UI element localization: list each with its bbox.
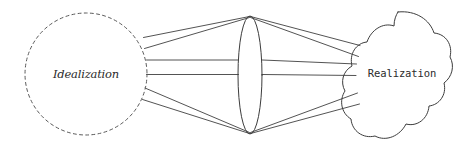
connector-left-6 xyxy=(143,100,250,134)
connector-right-3 xyxy=(262,60,357,64)
connector-left-5 xyxy=(145,88,250,133)
idealization-label: Idealization xyxy=(53,67,119,81)
connector-left-2 xyxy=(145,18,250,49)
diagram-canvas: Idealization Realization xyxy=(0,0,457,153)
connector-right-6 xyxy=(251,104,360,134)
lens-ellipse xyxy=(238,16,262,134)
connector-left-1 xyxy=(144,17,250,38)
realization-label: Realization xyxy=(368,67,436,79)
connector-bundle-left xyxy=(143,17,250,134)
connector-right-1 xyxy=(251,17,361,46)
connector-right-2 xyxy=(251,18,359,57)
connector-right-4 xyxy=(262,75,356,76)
